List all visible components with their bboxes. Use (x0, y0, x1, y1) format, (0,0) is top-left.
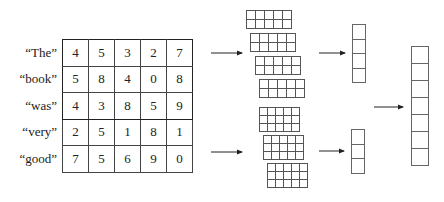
flow-arrows-icon (0, 0, 444, 202)
